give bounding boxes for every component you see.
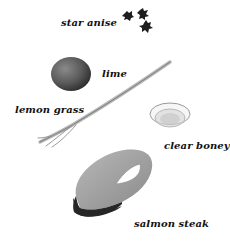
label-lemon-grass: lemon grass bbox=[15, 104, 84, 115]
star-anise-icon bbox=[118, 6, 158, 38]
label-star-anise: star anise bbox=[61, 17, 117, 28]
label-salmon-steak: salmon steak bbox=[134, 218, 209, 229]
ingredients-illustration: star anise lime lemon grass clear boney bbox=[0, 0, 230, 248]
label-clear-honey: clear boney bbox=[164, 140, 230, 151]
honey-bowl-icon bbox=[148, 100, 192, 136]
salmon-steak-icon bbox=[68, 146, 156, 220]
